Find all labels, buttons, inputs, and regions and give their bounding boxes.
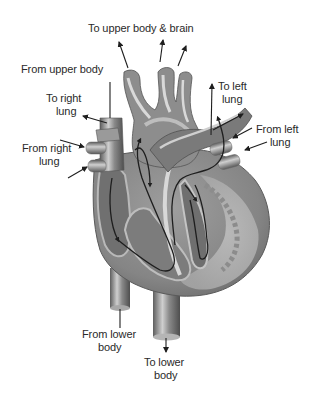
label-to-lower-body-line2: body — [154, 369, 177, 381]
heart-illustration — [0, 0, 321, 404]
label-from-right-lung-line1: From right — [22, 142, 71, 154]
heart-body — [93, 149, 269, 296]
label-from-left-lung-line2: lung — [270, 136, 290, 148]
from-left-lung-arrow-2 — [245, 142, 267, 150]
label-from-upper-body: From upper body — [21, 63, 103, 75]
label-to-left-lung-line2: lung — [222, 93, 242, 105]
label-from-lower-body-line1: From lower — [82, 328, 136, 340]
label-to-right-lung-line1: To right — [46, 92, 81, 104]
from-right-lung-arrow-2 — [68, 167, 87, 178]
to-upper-body-arrow-2 — [160, 40, 163, 62]
label-to-left-lung-line1: To left — [218, 80, 247, 92]
label-from-right-lung-line2: lung — [39, 155, 59, 167]
label-to-right-lung-line2: lung — [56, 105, 76, 117]
label-to-lower-body-line1: To lower — [144, 356, 184, 368]
label-to-upper-body-brain: To upper body & brain — [88, 22, 194, 34]
to-upper-body-arrow-3 — [178, 46, 186, 66]
label-from-left-lung-line1: From left — [256, 123, 299, 135]
heart-diagram: To upper body & brain From upper body To… — [0, 0, 321, 404]
to-upper-body-arrow-1 — [119, 42, 128, 68]
label-from-lower-body-line2: body — [98, 341, 121, 353]
